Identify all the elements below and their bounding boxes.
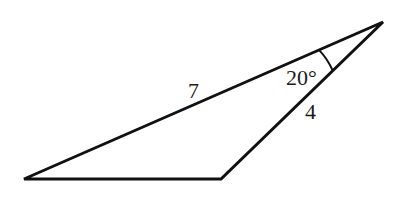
angle-label-20: 20° (286, 65, 317, 90)
triangle-shape (24, 22, 383, 179)
triangle-figure: 7 20° 4 (0, 0, 415, 199)
side-label-7: 7 (188, 78, 199, 103)
angle-arc (319, 50, 333, 71)
side-label-4: 4 (305, 99, 316, 124)
triangle-diagram: 7 20° 4 (0, 0, 415, 199)
